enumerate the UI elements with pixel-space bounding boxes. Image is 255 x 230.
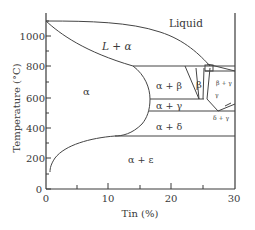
region-gamma: γ	[215, 91, 219, 99]
region-liquid: Liquid	[169, 17, 203, 29]
x-tick-label: 10	[102, 193, 115, 204]
region-alpha: α	[83, 86, 90, 97]
phase-diagram: 0 200 400 600 800 1000 0 10 20 30 Tin (%…	[0, 0, 255, 230]
region-alpha-epsilon: α + ε	[128, 154, 153, 165]
region-beta-gamma: β + γ	[216, 79, 232, 87]
y-tick-label: 1000	[20, 31, 45, 42]
region-delta-gamma: δ + γ	[213, 114, 229, 122]
x-tick-label: 30	[228, 193, 241, 204]
y-tick-label: 400	[26, 123, 45, 134]
region-labels: Liquid L + α α α + β β β + γ γ α + γ δ +…	[83, 17, 232, 165]
y-tick-label: 600	[26, 93, 45, 104]
region-l-alpha: L + α	[101, 40, 132, 52]
x-tick-label: 20	[165, 193, 178, 204]
x-ticks	[77, 183, 203, 189]
region-alpha-delta: α + δ	[156, 121, 182, 132]
region-alpha-beta: α + β	[156, 80, 182, 91]
y-tick-label: 800	[26, 61, 45, 72]
y-tick-label: 200	[26, 153, 45, 164]
y-tick-label: 0	[36, 184, 42, 195]
y-axis-label: Temperature (°C)	[11, 63, 22, 152]
region-beta: β	[196, 79, 202, 90]
x-tick-label: 0	[43, 193, 49, 204]
region-alpha-gamma: α + γ	[156, 100, 182, 111]
phase-boundaries	[46, 21, 235, 172]
x-axis-label: Tin (%)	[122, 208, 159, 219]
y-ticks	[46, 21, 51, 189]
